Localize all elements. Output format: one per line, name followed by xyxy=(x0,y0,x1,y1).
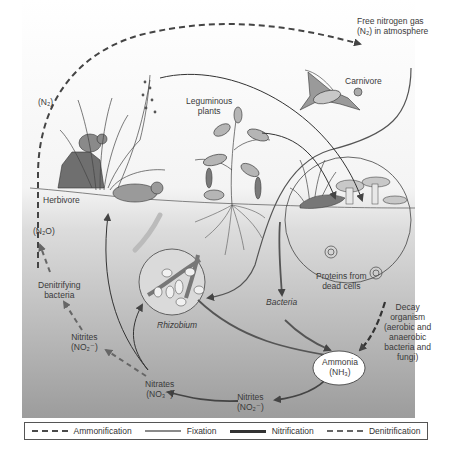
rhizobium-circle-illustration xyxy=(139,249,205,315)
label-nitrates: Nitrates (NO₃⁻) xyxy=(145,379,174,399)
label-bacteria: Bacteria xyxy=(266,297,297,307)
label-nitrites-bottom: Nitrites (NO₂⁻) xyxy=(237,392,264,412)
label-proteins-dead-cells: Proteins from dead cells xyxy=(316,271,367,291)
label-carnivore: Carnivore xyxy=(345,76,382,86)
legend-item-fixation: Fixation xyxy=(145,426,217,436)
legend-label: Ammonification xyxy=(74,426,132,436)
label-n2: (N₂) xyxy=(38,97,53,107)
legend-item-ammonification: Ammonification xyxy=(32,426,132,436)
label-nitrites-left: Nitrites (NO₂⁻) xyxy=(71,332,98,352)
dashed-light-line-icon xyxy=(327,430,363,432)
label-herbivore: Herbivore xyxy=(43,195,80,205)
label-free-nitrogen: Free nitrogen gas (N₂) in atmosphere xyxy=(357,16,428,36)
diagram-artwork xyxy=(0,0,458,465)
label-leguminous-plants: Leguminous plants xyxy=(186,96,232,116)
solid-light-line-icon xyxy=(145,430,181,432)
legend-item-nitrification: Nitrification xyxy=(230,426,314,436)
nitrogen-cycle-diagram: Free nitrogen gas (N₂) in atmosphere Car… xyxy=(0,0,458,465)
label-denitrifying-bacteria: Denitrifying bacteria xyxy=(38,280,81,300)
legend-label: Denitrification xyxy=(369,426,421,436)
legend-label: Nitrification xyxy=(272,426,314,436)
legend-label: Fixation xyxy=(187,426,217,436)
label-n2o: (N₂O) xyxy=(33,226,55,236)
dashed-bold-line-icon xyxy=(32,430,68,432)
legend: Ammonification Fixation Nitrification De… xyxy=(24,422,428,440)
label-ammonia: Ammonia (NH₃) xyxy=(322,357,358,377)
solid-bold-line-icon xyxy=(230,430,266,433)
label-rhizobium: Rhizobium xyxy=(157,320,197,330)
label-decay-organism: Decay organism (aerobic and anaerobic ba… xyxy=(384,302,431,362)
legend-item-denitrification: Denitrification xyxy=(327,426,421,436)
